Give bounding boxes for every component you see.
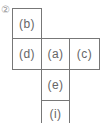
cell-e: (e) — [41, 69, 70, 101]
cell-e-label: (e) — [47, 78, 63, 92]
cell-d: (d) — [12, 38, 42, 70]
diagram-number-label: ② — [0, 4, 11, 16]
cell-i: (i) — [41, 100, 70, 123]
cell-i-label: (i) — [49, 107, 61, 121]
cell-c-label: (c) — [77, 47, 93, 61]
cell-a: (a) — [41, 38, 70, 70]
cell-a-label: (a) — [47, 47, 63, 61]
cell-d-label: (d) — [19, 47, 35, 61]
cell-b-label: (b) — [19, 17, 35, 31]
cell-c: (c) — [69, 38, 100, 70]
cell-b: (b) — [12, 8, 42, 39]
